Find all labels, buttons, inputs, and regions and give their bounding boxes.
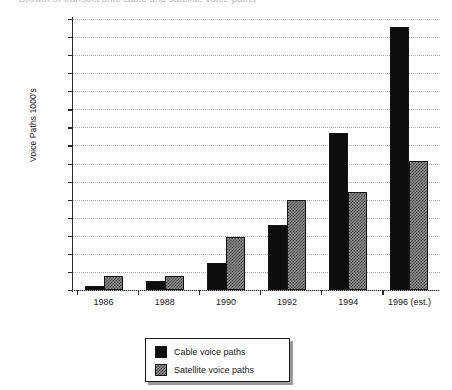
x-tick-mark <box>138 290 139 295</box>
bar-satellite-1986[interactable] <box>104 276 123 290</box>
gridline <box>73 55 440 56</box>
y-tick-mark <box>68 55 73 56</box>
y-tick-mark <box>68 218 73 219</box>
y-tick-mark <box>68 254 73 255</box>
bar-cable-1996[interactable] <box>390 27 409 290</box>
bar-group <box>390 19 428 290</box>
gridline <box>73 254 440 255</box>
gridline <box>73 164 440 165</box>
bar-cable-1992[interactable] <box>268 225 287 290</box>
y-tick-mark <box>68 164 73 165</box>
y-tick-mark <box>68 182 73 183</box>
bar-satellite-1996[interactable] <box>409 161 428 290</box>
y-tick-mark <box>68 73 73 74</box>
y-tick-mark <box>68 127 73 128</box>
bar-cable-1994[interactable] <box>329 133 348 290</box>
x-tick-mark <box>260 290 261 295</box>
bar-cable-1988[interactable] <box>146 281 165 290</box>
legend-swatch-icon <box>155 346 167 358</box>
gridline <box>73 127 440 128</box>
bar-satellite-1992[interactable] <box>287 200 306 290</box>
x-tick-mark <box>382 290 383 295</box>
x-tick-mark <box>77 290 78 295</box>
chart-title: Growth of transoceanic cable and satelli… <box>18 0 438 5</box>
bar-group <box>207 19 245 290</box>
bar-chart-figure: Growth of transoceanic cable and satelli… <box>0 0 452 390</box>
x-tick-mark <box>199 290 200 295</box>
bar-group <box>85 19 123 290</box>
bar-group <box>146 19 184 290</box>
y-tick-mark <box>68 290 73 291</box>
chart-legend: Cable voice pathsSatellite voice paths <box>145 338 290 382</box>
gridline <box>73 218 440 219</box>
legend-swatch-icon <box>155 364 167 376</box>
legend-item[interactable]: Satellite voice paths <box>155 362 289 378</box>
y-tick-mark <box>68 272 73 273</box>
legend-label: Satellite voice paths <box>174 365 254 375</box>
gridline <box>73 73 440 74</box>
gridline <box>73 91 440 92</box>
bar-satellite-1988[interactable] <box>165 276 184 290</box>
gridline <box>73 37 440 38</box>
y-tick-mark <box>68 145 73 146</box>
gridline <box>73 272 440 273</box>
gridline <box>73 182 440 183</box>
gridline <box>73 145 440 146</box>
gridline <box>73 109 440 110</box>
bar-group <box>268 19 306 290</box>
y-axis-title: Voice Paths 1000's <box>28 45 38 205</box>
y-tick-mark <box>68 109 73 110</box>
plot-area: 0100200300400500600700800900100011001200… <box>73 19 440 290</box>
y-tick-mark <box>68 236 73 237</box>
y-tick-mark <box>68 37 73 38</box>
bar-cable-1986[interactable] <box>85 286 104 290</box>
gridline <box>73 290 440 291</box>
gridline <box>73 236 440 237</box>
bar-cable-1990[interactable] <box>207 263 226 290</box>
legend-items: Cable voice pathsSatellite voice paths <box>155 344 289 378</box>
legend-item[interactable]: Cable voice paths <box>155 344 289 360</box>
x-tick-mark <box>321 290 322 295</box>
y-tick-mark <box>68 19 73 20</box>
gridline <box>73 200 440 201</box>
gridline <box>73 19 440 20</box>
y-tick-mark <box>68 200 73 201</box>
y-tick-mark <box>68 91 73 92</box>
bar-group <box>329 19 367 290</box>
bar-satellite-1990[interactable] <box>226 237 245 290</box>
bar-satellite-1994[interactable] <box>348 192 367 290</box>
x-tick-label: 1996 (est.) <box>369 297 449 307</box>
legend-label: Cable voice paths <box>174 347 246 357</box>
